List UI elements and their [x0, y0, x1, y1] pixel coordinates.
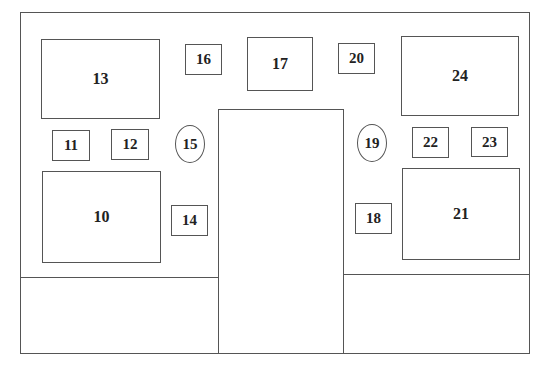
left-lower-divider	[20, 277, 219, 278]
central-block	[218, 109, 344, 354]
component-10: 10	[42, 171, 161, 263]
component-22: 22	[412, 127, 449, 158]
component-19: 19	[357, 124, 387, 162]
component-23: 23	[471, 127, 508, 157]
component-20: 20	[338, 43, 375, 74]
component-18: 18	[355, 203, 392, 234]
component-13: 13	[41, 39, 160, 119]
component-11: 11	[52, 130, 90, 161]
component-21: 21	[402, 168, 520, 260]
component-16: 16	[185, 44, 222, 75]
component-15: 15	[175, 125, 205, 163]
component-12: 12	[111, 129, 149, 160]
component-24: 24	[401, 36, 519, 116]
component-14: 14	[171, 205, 208, 236]
right-lower-divider	[343, 274, 530, 275]
component-17: 17	[247, 37, 313, 91]
